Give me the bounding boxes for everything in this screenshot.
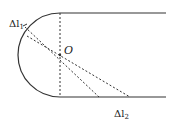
dashed-ray-1 [25, 27, 99, 97]
center-label: O [64, 44, 73, 57]
delta-l1-label: Δl1 [9, 18, 24, 31]
delta-l2-label: Δl2 [114, 108, 129, 121]
dashed-ray-2 [27, 36, 130, 97]
diagram: O Δl1 Δl2 [0, 0, 176, 129]
center-point [59, 54, 61, 56]
